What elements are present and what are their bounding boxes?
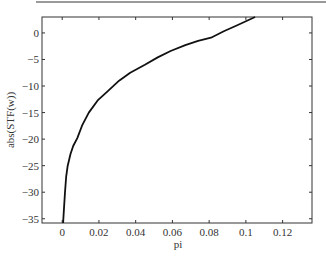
y-tick-label: −10 <box>22 80 40 92</box>
x-tick-label: 0.12 <box>273 226 292 238</box>
line-chart: 00.020.040.060.080.10.12 0−5−10−15−20−25… <box>0 0 326 258</box>
y-tick-label: −25 <box>22 160 40 172</box>
y-tick-label: −20 <box>22 133 40 145</box>
y-tick-label: −35 <box>22 213 40 225</box>
data-series <box>63 17 255 223</box>
y-tick-label: 0 <box>34 27 40 39</box>
x-axis-ticks: 00.020.040.060.080.10.12 <box>59 17 292 238</box>
x-tick-label: 0.06 <box>163 226 183 238</box>
x-tick-label: 0.08 <box>200 226 220 238</box>
y-tick-label: −5 <box>27 53 39 65</box>
y-axis-label: abs(STF(w)) <box>4 92 17 149</box>
x-tick-label: 0 <box>59 226 65 238</box>
x-tick-label: 0.1 <box>239 226 253 238</box>
x-tick-label: 0.04 <box>126 226 146 238</box>
series-line <box>63 17 255 223</box>
y-tick-label: −30 <box>22 186 40 198</box>
y-tick-label: −15 <box>22 107 40 119</box>
x-tick-label: 0.02 <box>89 226 108 238</box>
x-axis-label: pi <box>174 238 183 250</box>
